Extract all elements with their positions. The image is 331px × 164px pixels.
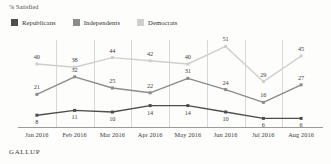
data-label: 40 [34, 53, 41, 60]
legend-label-democrats: Democrats [148, 19, 177, 26]
data-label: 10 [222, 115, 229, 122]
data-point-marker[interactable] [224, 111, 227, 114]
data-point-marker[interactable] [73, 75, 76, 78]
x-tick-label: Mar 2016 [100, 131, 125, 138]
data-point-marker[interactable] [149, 104, 152, 107]
x-tick-label: Apr 2016 [138, 131, 163, 138]
data-label: 42 [147, 50, 154, 57]
data-label: 6 [262, 121, 265, 128]
chart-legend: Republicans Independents Democrats [11, 19, 195, 26]
legend-item-democrats[interactable]: Democrats [137, 19, 177, 26]
legend-swatch-independents [73, 19, 80, 26]
data-label: 29 [260, 71, 267, 78]
data-point-marker[interactable] [262, 101, 265, 104]
data-point-marker[interactable] [111, 111, 114, 114]
data-point-marker[interactable] [300, 83, 303, 86]
data-label: 14 [185, 109, 192, 116]
data-point-marker[interactable] [186, 77, 189, 80]
data-label: 8 [35, 118, 38, 125]
legend-swatch-republicans [11, 19, 18, 26]
data-label: 25 [109, 77, 116, 84]
legend-label-republicans: Republicans [22, 19, 56, 26]
x-tick-label: Aug 2016 [288, 131, 314, 138]
data-label: 40 [185, 53, 192, 60]
data-label: 11 [71, 113, 77, 120]
data-point-marker[interactable] [149, 59, 152, 62]
data-label: 14 [147, 109, 154, 116]
data-point-marker[interactable] [35, 93, 38, 96]
data-point-marker[interactable] [224, 45, 227, 48]
data-point-marker[interactable] [300, 55, 303, 58]
series-lines [18, 40, 320, 128]
data-point-marker[interactable] [111, 87, 114, 90]
data-label: 31 [185, 67, 192, 74]
legend-swatch-democrats [137, 19, 144, 26]
legend-label-independents: Independents [84, 19, 120, 26]
data-label: 32 [71, 66, 78, 73]
data-label: 45 [298, 45, 305, 52]
data-point-marker[interactable] [262, 117, 265, 120]
x-tick-label: Jun 2016 [214, 131, 238, 138]
data-point-marker[interactable] [224, 88, 227, 91]
data-label: 22 [147, 82, 154, 89]
legend-item-independents[interactable]: Independents [73, 19, 120, 26]
x-axis-baseline [18, 127, 323, 128]
source-attribution: GALLUP [9, 148, 40, 156]
data-label: 10 [109, 115, 116, 122]
data-point-marker[interactable] [35, 114, 38, 117]
x-tick-label: Jul 2016 [252, 131, 274, 138]
y-axis-title: % Satisfied [9, 3, 38, 10]
data-label: 24 [222, 79, 229, 86]
legend-item-republicans[interactable]: Republicans [11, 19, 56, 26]
x-tick-label: May 2016 [175, 131, 202, 138]
data-point-marker[interactable] [186, 104, 189, 107]
gallup-line-chart: % Satisfied Republicans Independents Dem… [0, 0, 331, 164]
data-point-marker[interactable] [186, 63, 189, 66]
data-label: 44 [109, 47, 116, 54]
data-label: 38 [71, 56, 78, 63]
data-label: 51 [222, 35, 229, 42]
data-point-marker[interactable] [35, 63, 38, 66]
data-point-marker[interactable] [262, 80, 265, 83]
plot-area [18, 40, 320, 128]
x-tick-label: Jan 2016 [25, 131, 48, 138]
data-point-marker[interactable] [111, 56, 114, 59]
data-point-marker[interactable] [300, 117, 303, 120]
data-label: 6 [300, 121, 303, 128]
x-tick-label: Feb 2016 [62, 131, 86, 138]
data-point-marker[interactable] [73, 109, 76, 112]
x-axis-labels: Jan 2016Feb 2016Mar 2016Apr 2016May 2016… [0, 131, 331, 143]
data-label: 21 [34, 83, 41, 90]
data-label: 16 [260, 91, 267, 98]
data-label: 27 [298, 74, 305, 81]
data-point-marker[interactable] [149, 91, 152, 94]
